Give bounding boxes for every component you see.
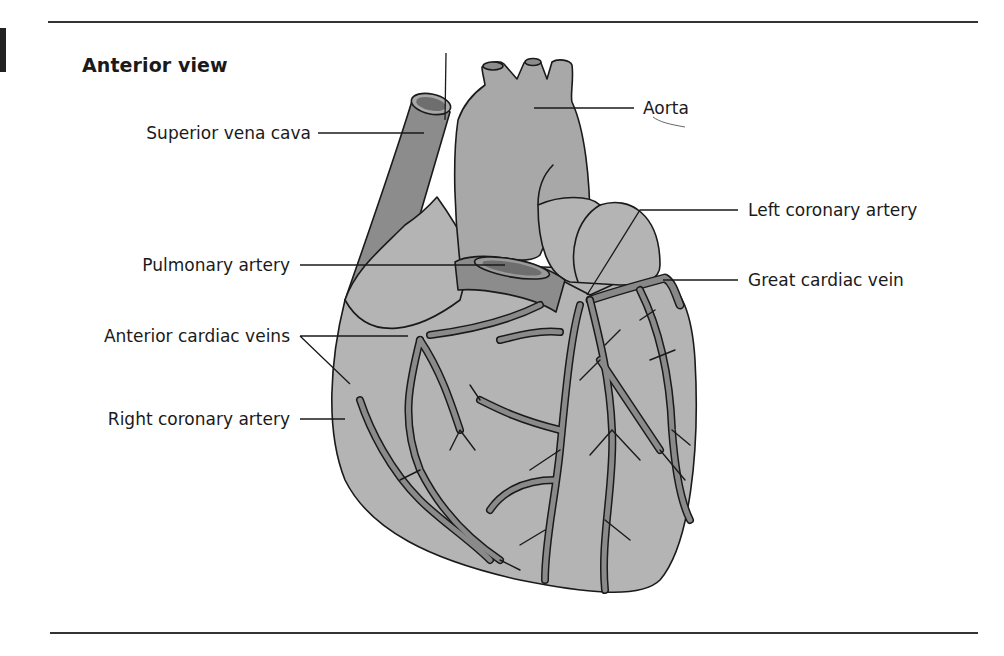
label-pulmonary-artery: Pulmonary artery bbox=[142, 255, 290, 275]
label-aorta: Aorta bbox=[643, 98, 689, 118]
label-superior-vena-cava: Superior vena cava bbox=[146, 123, 311, 143]
label-great-cardiac-vein: Great cardiac vein bbox=[748, 270, 904, 290]
aorta-annotation-mark bbox=[653, 117, 685, 127]
label-left-coronary-artery: Left coronary artery bbox=[748, 200, 917, 220]
label-right-coronary-artery: Right coronary artery bbox=[108, 409, 290, 429]
label-anterior-cardiac-veins: Anterior cardiac veins bbox=[104, 326, 290, 346]
